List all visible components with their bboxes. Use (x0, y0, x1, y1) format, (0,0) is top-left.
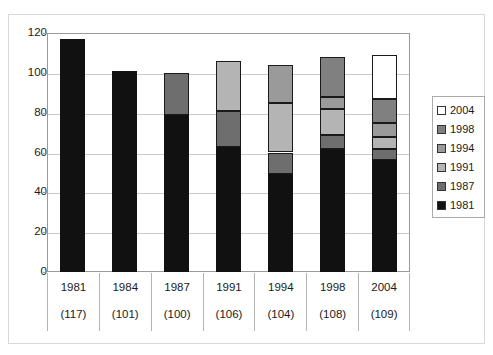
x-axis-count-label: (109) (359, 308, 409, 320)
x-axis-category-cell: 1987(100) (151, 273, 203, 331)
bar-segment[interactable] (320, 109, 345, 135)
bar-segment[interactable] (320, 57, 345, 97)
bar-segment[interactable] (320, 135, 345, 149)
x-axis-category-cell: 1998(108) (306, 273, 358, 331)
x-axis-year-label: 1981 (48, 281, 99, 293)
chart-root: Cumulative chart 120100806040200 1981(11… (0, 0, 493, 355)
y-axis: 120100806040200 (0, 33, 47, 272)
x-axis-category-table: 1981(117)1984(101)1987(100)1991(106)1994… (47, 273, 410, 331)
x-axis-year-label: 1994 (255, 281, 306, 293)
bar-segment[interactable] (164, 115, 189, 272)
bar-segment[interactable] (216, 147, 241, 272)
x-axis-count-label: (117) (48, 308, 99, 320)
x-axis-category-cell: 1981(117) (47, 273, 99, 331)
y-axis-tick-label: 0 (7, 266, 47, 278)
y-axis-tick-label: 20 (7, 226, 47, 238)
bar-group[interactable] (320, 33, 345, 272)
x-axis-category-cell: 2004(109) (358, 273, 410, 331)
bar-group[interactable] (164, 33, 189, 272)
legend-item[interactable]: 1981 (437, 196, 474, 214)
x-axis-year-label: 1987 (152, 281, 203, 293)
y-axis-tick-label: 120 (7, 27, 47, 39)
bar-group[interactable] (112, 33, 137, 272)
bar-segment[interactable] (372, 123, 397, 137)
bar-group[interactable] (372, 33, 397, 272)
bar-group[interactable] (60, 33, 85, 272)
y-axis-tick-label: 40 (7, 186, 47, 198)
x-axis-count-label: (100) (152, 308, 203, 320)
bar-segment[interactable] (112, 71, 137, 272)
x-axis-year-label: 1991 (204, 281, 255, 293)
legend-item[interactable]: 1987 (437, 177, 474, 195)
bar-segment[interactable] (372, 55, 397, 99)
x-axis-count-label: (104) (255, 308, 306, 320)
x-axis-year-label: 1984 (100, 281, 151, 293)
x-axis-year-label: 1998 (307, 281, 358, 293)
bar-segment[interactable] (372, 160, 397, 272)
legend-swatch-icon (437, 182, 446, 191)
bars-layer (47, 33, 410, 272)
x-axis-category-cell: 1984(101) (99, 273, 151, 331)
legend-label: 2004 (450, 105, 474, 116)
bar-segment[interactable] (216, 61, 241, 111)
bar-segment[interactable] (320, 149, 345, 272)
x-axis-count-label: (106) (204, 308, 255, 320)
bar-group[interactable] (268, 33, 293, 272)
bar-segment[interactable] (60, 39, 85, 272)
legend-swatch-icon (437, 144, 446, 153)
legend-label: 1998 (450, 124, 474, 135)
bar-group[interactable] (216, 33, 241, 272)
legend-label: 1981 (450, 200, 474, 211)
legend-item[interactable]: 2004 (437, 101, 474, 119)
legend-swatch-icon (437, 201, 446, 210)
bar-segment[interactable] (268, 153, 293, 175)
bar-segment[interactable] (268, 103, 293, 153)
y-axis-tick-label: 100 (7, 67, 47, 79)
y-axis-tick-label: 80 (7, 107, 47, 119)
legend-swatch-icon (437, 106, 446, 115)
bar-segment[interactable] (268, 174, 293, 272)
y-axis-tick-label: 60 (7, 147, 47, 159)
bar-segment[interactable] (216, 111, 241, 147)
legend-item[interactable]: 1994 (437, 139, 474, 157)
legend: 200419981994199119871981 (432, 96, 485, 218)
legend-label: 1994 (450, 143, 474, 154)
bar-segment[interactable] (320, 97, 345, 109)
legend-label: 1991 (450, 162, 474, 173)
legend-item[interactable]: 1998 (437, 120, 474, 138)
x-axis-category-cell: 1994(104) (254, 273, 306, 331)
bar-segment[interactable] (268, 65, 293, 103)
x-axis-count-label: (108) (307, 308, 358, 320)
x-axis-category-cell: 1991(106) (203, 273, 255, 331)
bar-segment[interactable] (372, 149, 397, 161)
legend-label: 1987 (450, 181, 474, 192)
x-axis-year-label: 2004 (359, 281, 409, 293)
bar-segment[interactable] (372, 99, 397, 123)
x-axis-count-label: (101) (100, 308, 151, 320)
legend-swatch-icon (437, 125, 446, 134)
legend-swatch-icon (437, 163, 446, 172)
legend-item[interactable]: 1991 (437, 158, 474, 176)
bar-segment[interactable] (372, 137, 397, 149)
bar-segment[interactable] (164, 73, 189, 115)
